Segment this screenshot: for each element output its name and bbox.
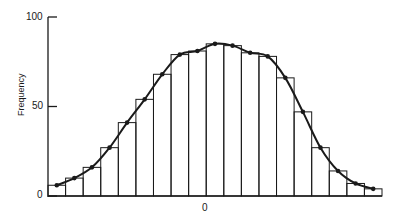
histogram-bar <box>241 53 259 196</box>
curve-point-marker <box>107 145 112 150</box>
curve-point-marker <box>54 183 59 188</box>
fitted-curve <box>57 44 373 189</box>
y-tick-label-50: 50 <box>32 100 43 111</box>
curve-point-marker <box>178 52 183 57</box>
curve-point-marker <box>283 76 288 81</box>
histogram-bar <box>259 56 277 196</box>
x-tick-label-zero: 0 <box>202 202 208 213</box>
histogram-bar <box>118 123 136 196</box>
curve-point-marker <box>90 165 95 170</box>
curve-point-marker <box>230 43 235 48</box>
curve-point-marker <box>301 110 306 115</box>
curve-point-marker <box>265 54 270 59</box>
histogram-bar <box>153 74 171 196</box>
histogram-bar <box>329 171 347 196</box>
y-tick-label-0: 0 <box>37 189 43 200</box>
histogram-bar <box>277 78 295 196</box>
curve-point-marker <box>195 49 200 54</box>
curve-point-marker <box>318 145 323 150</box>
y-axis-label: Frequency <box>16 74 26 116</box>
histogram-bar <box>189 51 207 196</box>
curve-point-marker <box>160 72 165 77</box>
curve-point-marker <box>72 176 77 181</box>
histogram-chart <box>0 0 397 220</box>
curve-point-marker <box>125 120 130 125</box>
histogram-bar <box>206 44 224 196</box>
curve-point-marker <box>336 169 341 174</box>
curve-point-marker <box>142 97 147 102</box>
curve-point-marker <box>213 42 218 47</box>
curve-point-marker <box>353 181 358 186</box>
curve-point-marker <box>371 187 376 192</box>
curve-point-marker <box>248 51 253 56</box>
histogram-bar <box>171 55 189 196</box>
histogram-bar <box>312 148 330 196</box>
y-tick-label-100: 100 <box>26 11 43 22</box>
histogram-bar <box>224 46 242 196</box>
histogram-bar <box>136 99 154 196</box>
